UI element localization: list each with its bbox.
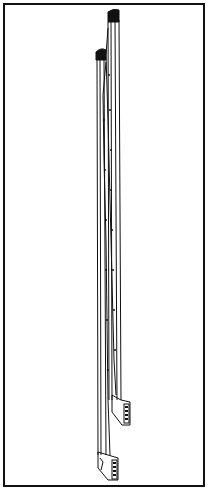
rear-post — [106, 9, 130, 425]
rail-illustration — [0, 0, 209, 490]
front-foot-perforations — [113, 462, 116, 476]
front-post-cap-icon — [96, 49, 106, 60]
rear-foot-perforations — [125, 406, 128, 420]
rear-post-cap-icon — [108, 9, 119, 22]
